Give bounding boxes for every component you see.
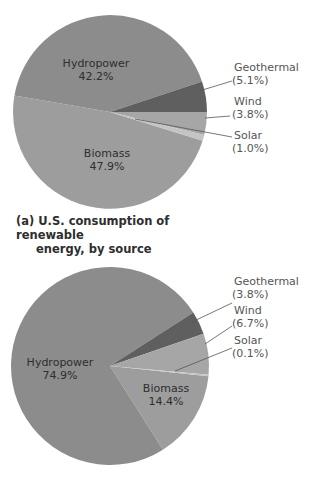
leader-line-wind	[205, 116, 230, 118]
label-wind-pct: (3.8%)	[232, 108, 269, 121]
pie-chart-consumption: Hydropower 42.2% Biomass 47.9% Geotherma…	[13, 15, 299, 209]
label-solar-pct: (0.1%)	[232, 347, 269, 360]
chart-caption: (a) U.S. consumption of renewable energy…	[16, 214, 236, 256]
caption-line-1: (a) U.S. consumption of renewable	[16, 214, 169, 242]
label-biomass-pct: 14.4%	[149, 395, 184, 408]
caption-line-2: energy, by source	[16, 242, 236, 256]
label-hydropower-name: Hydropower	[63, 57, 130, 70]
leader-line-wind	[205, 326, 232, 344]
leader-line-geothermal	[192, 303, 232, 322]
label-biomass-pct: 47.9%	[90, 160, 125, 173]
label-biomass-name: Biomass	[143, 382, 190, 395]
label-wind-name: Wind	[234, 95, 262, 108]
label-hydropower-pct: 74.9%	[43, 369, 78, 382]
label-geothermal-pct: (3.8%)	[232, 288, 269, 301]
label-geothermal-name: Geothermal	[234, 275, 299, 288]
label-wind-name: Wind	[234, 304, 262, 317]
label-geothermal-name: Geothermal	[234, 61, 299, 74]
leader-line-geothermal	[199, 81, 232, 91]
label-biomass-name: Biomass	[84, 147, 131, 160]
label-hydropower-name: Hydropower	[27, 356, 94, 369]
label-solar-name: Solar	[234, 129, 263, 142]
label-geothermal-pct: (5.1%)	[232, 74, 269, 87]
label-wind-pct: (6.7%)	[232, 317, 269, 330]
label-hydropower-pct: 42.2%	[79, 70, 114, 83]
label-solar-pct: (1.0%)	[232, 142, 269, 155]
label-solar-name: Solar	[234, 334, 263, 347]
pie-chart-second: Hydropower 74.9% Biomass 14.4% Geotherma…	[11, 267, 299, 465]
